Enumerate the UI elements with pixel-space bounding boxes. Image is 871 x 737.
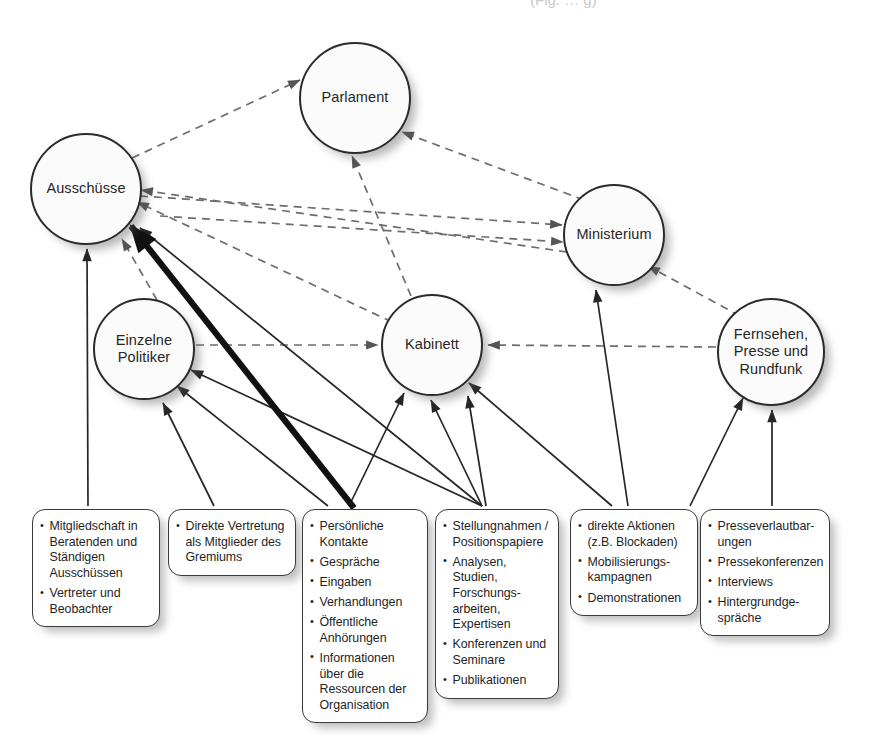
node-einzelne-politiker-label: EinzelnePolitiker — [112, 332, 176, 366]
list-item: direkte Aktionen (z.B. Blockaden) — [578, 519, 689, 550]
list-item: Vertreter und Beobachter — [40, 586, 151, 617]
edge-medien-kabinett — [488, 345, 716, 347]
edge-box5-kabinett — [469, 383, 612, 506]
edge-medien-ministerium — [648, 266, 740, 316]
node-parlament[interactable]: Parlament — [299, 42, 411, 154]
box-kontakte[interactable]: Persönliche Kontakte Gespräche Eingaben … — [302, 509, 428, 723]
list-item: Interviews — [708, 575, 821, 591]
list-item: Informationen über die Ressourcen der Or… — [310, 651, 419, 714]
edge-kabinett-ausschuesse — [137, 202, 392, 322]
node-parlament-label: Parlament — [318, 89, 393, 106]
list-item: Öffentliche Anhörungen — [310, 615, 419, 646]
edge-box2-politiker — [163, 403, 214, 506]
list-item: Demonstrationen — [578, 591, 689, 607]
node-ministerium[interactable]: Ministerium — [563, 184, 665, 286]
node-kabinett-label: Kabinett — [401, 336, 463, 353]
edge-ministerium-parlament — [402, 132, 584, 200]
list-item: Mobilisierungs-kampagnen — [578, 555, 689, 586]
node-einzelne-politiker[interactable]: EinzelnePolitiker — [93, 298, 195, 400]
list-item: Verhandlungen — [310, 595, 419, 611]
edge-box3-kabinett — [349, 393, 404, 506]
node-ausschuesse-label: Ausschüsse — [42, 180, 129, 197]
edge-box4-kabinett-2 — [468, 396, 486, 506]
node-medien[interactable]: Fernsehen,Presse undRundfunk — [717, 298, 825, 406]
list-item: Eingaben — [310, 575, 419, 591]
list-item: Presseverlautbar-ungen — [708, 519, 821, 550]
edge-box5-ministerium — [596, 290, 628, 506]
box-mitgliedschaft-list: Mitgliedschaft in Beratenden und Ständig… — [40, 519, 151, 617]
edge-kabinett-ministerium — [160, 216, 563, 242]
top-caption-fragment: (Fig. … g) — [530, 0, 871, 11]
box-stellungnahmen[interactable]: Stellungnahmen / Positionspapiere Analys… — [435, 509, 559, 699]
list-item: Pressekonferenzen — [708, 555, 821, 571]
list-item: Persönliche Kontakte — [310, 519, 419, 550]
diagram-canvas: (Fig. … g) — [0, 0, 871, 737]
box-direkte-vertretung-list: Direkte Vertretung als Mitglieder des Gr… — [176, 519, 287, 566]
edge-kabinett-parlament — [352, 156, 411, 296]
list-item: Stellungnahmen / Positionspapiere — [443, 519, 550, 550]
edge-ausschuesse-ministerium — [140, 196, 562, 225]
box-presse[interactable]: Presseverlautbar-ungen Pressekonferenzen… — [700, 509, 830, 636]
box-stellungnahmen-list: Stellungnahmen / Positionspapiere Analys… — [443, 519, 550, 689]
list-item: Publikationen — [443, 673, 550, 689]
box-mitgliedschaft[interactable]: Mitgliedschaft in Beratenden und Ständig… — [32, 509, 160, 627]
box-presse-list: Presseverlautbar-ungen Pressekonferenzen… — [708, 519, 821, 626]
node-ministerium-label: Ministerium — [572, 226, 655, 243]
list-item: Konferenzen und Seminare — [443, 637, 550, 668]
box-kontakte-list: Persönliche Kontakte Gespräche Eingaben … — [310, 519, 419, 713]
list-item: Analysen, Studien, Forschungs-arbeiten, … — [443, 555, 550, 633]
list-item: Mitgliedschaft in Beratenden und Ständig… — [40, 519, 151, 582]
edge-box5-medien — [690, 398, 743, 506]
box-aktionen-list: direkte Aktionen (z.B. Blockaden) Mobili… — [578, 519, 689, 606]
node-kabinett[interactable]: Kabinett — [381, 294, 483, 396]
edge-box4-kabinett — [431, 400, 482, 506]
box-direkte-vertretung[interactable]: Direkte Vertretung als Mitglieder des Gr… — [168, 509, 296, 576]
node-medien-label: Fernsehen,Presse undRundfunk — [730, 326, 812, 377]
box-aktionen[interactable]: direkte Aktionen (z.B. Blockaden) Mobili… — [570, 509, 698, 616]
list-item: Gespräche — [310, 555, 419, 571]
list-item: Hintergrundge-spräche — [708, 595, 821, 626]
edge-ministerium-ausschuesse — [141, 190, 567, 252]
edge-ausschuesse-parlament — [132, 80, 300, 158]
node-ausschuesse[interactable]: Ausschüsse — [30, 133, 142, 245]
list-item: Direkte Vertretung als Mitglieder des Gr… — [176, 519, 287, 566]
edge-box1-ausschuesse — [87, 249, 88, 506]
